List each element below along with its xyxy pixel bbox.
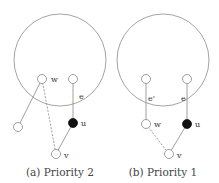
edge-w-left	[18, 79, 42, 127]
node-top-left	[142, 75, 151, 84]
label-v: v	[176, 151, 182, 160]
node-u	[183, 120, 192, 129]
node-w	[38, 75, 47, 84]
label-u: u	[195, 120, 200, 129]
node-u	[69, 119, 78, 128]
caption-a: (a) Priority 2	[26, 166, 94, 178]
panel-b: e' e w u v (b) Priority 1	[117, 14, 209, 178]
label-e: e	[181, 94, 186, 103]
label-u: u	[81, 119, 86, 128]
label-w: w	[154, 120, 161, 129]
edge-u-v	[56, 123, 73, 154]
edge-w-v-dashed	[42, 79, 56, 154]
region-circle-a	[14, 14, 106, 106]
edge-u-v	[169, 124, 187, 154]
label-e: e	[79, 92, 84, 101]
label-e-prime: e'	[148, 94, 155, 103]
diagram-canvas: w e u v (a) Priority 2 e' e w u v (b) Pr…	[0, 0, 219, 183]
label-v: v	[63, 151, 69, 160]
node-w	[142, 120, 151, 129]
caption-b: (b) Priority 1	[129, 166, 198, 178]
node-left	[14, 123, 23, 132]
region-circle-b	[117, 14, 209, 106]
node-v	[52, 150, 61, 159]
node-top-right	[69, 75, 78, 84]
panel-a: w e u v (a) Priority 2	[14, 14, 107, 178]
node-top-right	[183, 75, 192, 84]
label-w: w	[51, 75, 58, 84]
node-v	[165, 150, 174, 159]
